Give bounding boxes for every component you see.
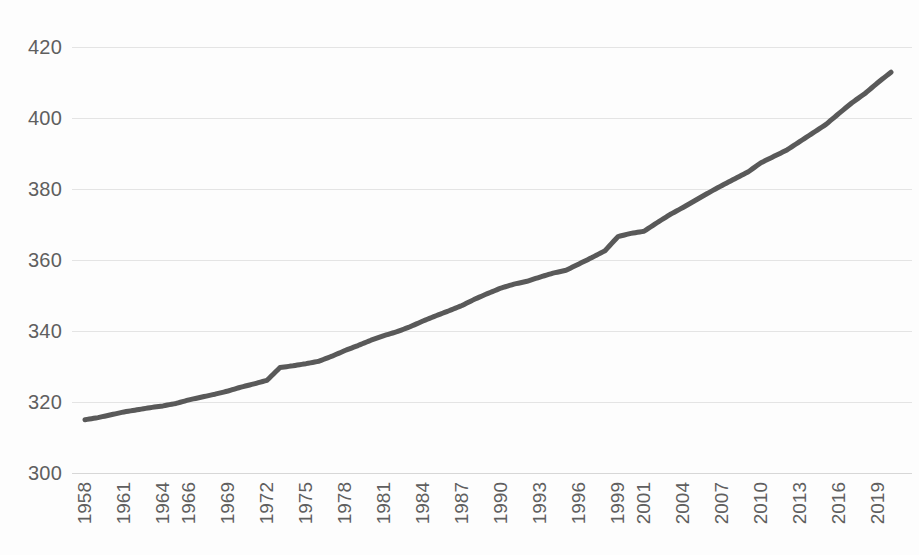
plot-area	[72, 0, 919, 555]
y-tick-label-360: 360	[28, 249, 62, 272]
co2-line-chart: 300320340360380400420 195819611964196619…	[0, 0, 919, 555]
series-line	[72, 0, 919, 555]
y-tick-label-380: 380	[28, 178, 62, 201]
y-tick-label-400: 400	[28, 107, 62, 130]
y-tick-label-300: 300	[28, 462, 62, 485]
co2-series-polyline	[85, 72, 891, 420]
y-tick-label-340: 340	[28, 320, 62, 343]
y-tick-label-320: 320	[28, 391, 62, 414]
y-axis: 300320340360380400420	[0, 0, 72, 555]
y-tick-label-420: 420	[28, 36, 62, 59]
